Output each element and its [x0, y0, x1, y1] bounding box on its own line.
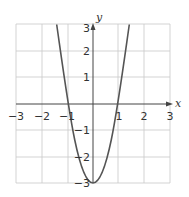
x-tick-labels: −3 −2 −1 1 2 3	[8, 110, 174, 123]
x-tick-label: −3	[8, 110, 24, 123]
parabola-chart: x y −3 −2 −1 1 2 3 3 2 1 −1 −2 −3	[0, 0, 189, 197]
x-tick-label: 1	[116, 110, 123, 123]
y-tick-label: 1	[83, 71, 90, 84]
y-tick-label: 3	[83, 22, 90, 35]
y-tick-label: −3	[74, 177, 90, 190]
y-tick-label: −2	[74, 151, 90, 164]
x-axis-label: x	[175, 97, 182, 110]
x-tick-label: 3	[167, 110, 174, 123]
x-tick-label: 2	[141, 110, 148, 123]
y-tick-labels: 3 2 1 −1 −2 −3	[74, 22, 90, 190]
y-tick-label: −1	[74, 124, 90, 137]
x-tick-label: −2	[34, 110, 50, 123]
y-tick-label: 2	[83, 45, 90, 58]
x-tick-label: −1	[59, 110, 75, 123]
y-axis-label: y	[95, 11, 103, 24]
x-axis-arrow-icon	[166, 102, 173, 107]
